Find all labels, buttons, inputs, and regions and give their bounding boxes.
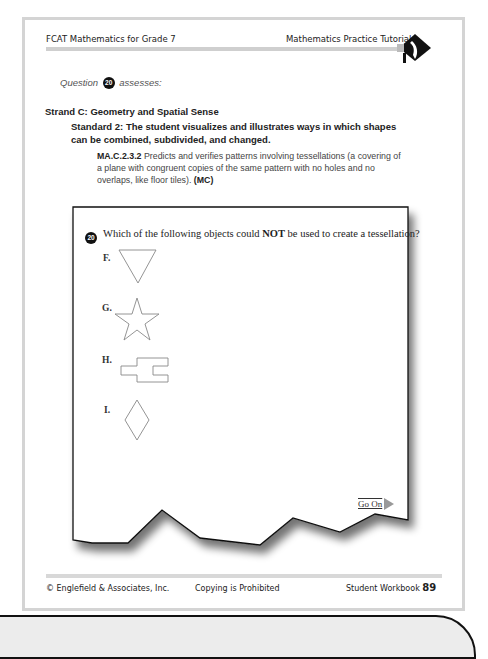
question-emphasis: NOT	[262, 228, 285, 239]
option-h-label[interactable]: H.	[102, 355, 112, 365]
go-on-label: Go On	[358, 499, 382, 509]
option-i-label[interactable]: I.	[104, 405, 110, 415]
next-page-edge	[0, 615, 476, 659]
go-on-button[interactable]: Go On	[358, 497, 395, 511]
footer-notice: Copying is Prohibited	[195, 584, 280, 593]
question-number-badge-main: 20	[83, 228, 99, 246]
question-text: Which of the following objects could NOT…	[103, 228, 420, 239]
footer-workbook: Student Workbook 89	[346, 582, 436, 593]
footer-copyright: © Englefield & Associates, Inc.	[46, 584, 169, 593]
option-g-label[interactable]: G.	[102, 303, 112, 313]
arrow-right-icon	[383, 497, 395, 511]
option-f-label[interactable]: F.	[103, 253, 110, 263]
page-number: 89	[422, 582, 436, 593]
footer-rule	[46, 574, 442, 578]
